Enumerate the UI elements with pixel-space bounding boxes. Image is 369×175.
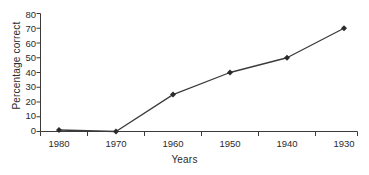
data-point-1980 <box>56 127 62 133</box>
data-point-1930 <box>341 25 347 31</box>
data-point-1940 <box>284 55 290 61</box>
chart-container: Percentage correct Years 80 70 60 50 40 … <box>0 0 369 175</box>
x-axis <box>41 132 358 137</box>
plot-area <box>0 0 369 175</box>
y-axis <box>37 14 41 132</box>
data-line-series-0 <box>59 28 344 131</box>
data-point-markers <box>56 25 347 134</box>
data-point-1950 <box>227 70 233 76</box>
